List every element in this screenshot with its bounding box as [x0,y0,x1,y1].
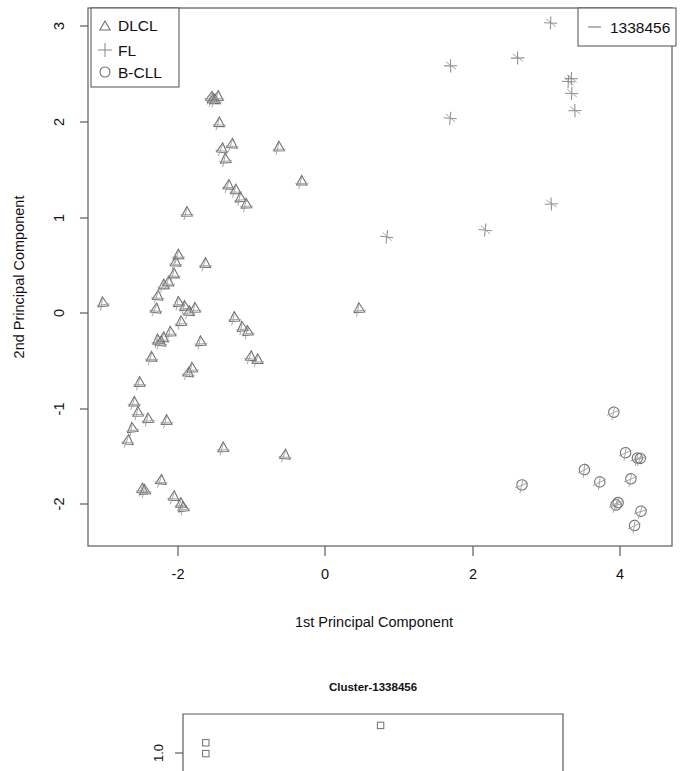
data-point-dlcl [272,141,285,155]
data-point-dlcl [215,142,229,157]
data-point-fl [444,59,457,72]
class-legend: DLCL FL B-CLL [91,8,179,87]
marker-overlay [142,421,155,422]
data-point-dlcl [199,258,212,272]
data-point-dlcl [154,474,168,489]
square-marker [203,740,209,746]
data-point-b-cll [618,446,632,461]
data-point-fl [561,75,575,89]
data-point-dlcl [241,325,255,340]
y-tick-label: 1 [51,214,67,222]
data-point-fl [568,104,581,117]
data-point-b-cll [624,473,637,487]
data-point-dlcl [167,268,180,282]
data-point-fl [443,111,457,125]
cluster-panel-ytick-label: 1.0 [151,744,166,762]
square-marker [203,750,209,756]
marker-overlay [222,187,235,188]
y-tick-label: 3 [51,22,67,30]
x-tick-label: 4 [616,566,624,582]
data-point-dlcl [194,335,208,349]
marker-overlay [175,324,188,325]
cluster-legend-label: 1338456 [610,19,670,36]
x-tick-label: 2 [469,566,477,582]
data-point-b-cll [633,505,647,520]
data-point-fl [544,16,558,30]
data-point-dlcl [217,442,230,456]
y-tick-label: 0 [51,309,67,317]
y-tick-label: 2 [51,118,67,126]
data-point-dlcl [213,117,226,131]
cluster-panel-title: Cluster-1338456 [329,681,417,693]
data-point-fl [544,197,558,211]
data-point-dlcl [160,415,173,429]
data-point-fl [478,223,492,237]
data-point-dlcl [180,206,193,220]
x-tick-label: 0 [321,566,329,582]
data-point-b-cll [627,519,641,534]
square-marker [377,722,383,728]
data-point-dlcl [164,326,178,340]
cluster-panel-frame [183,714,563,771]
y-tick-label: -2 [51,498,67,511]
data-point-fl [565,87,579,101]
legend-label: DLCL [118,17,158,34]
x-tick-label: -2 [172,566,185,582]
cluster-id-legend: 1338456 [578,8,676,46]
data-point-dlcl [222,179,236,193]
data-point-fl [565,72,578,85]
y-tick-label: -1 [51,403,67,416]
legend-label: B-CLL [118,64,162,81]
y-axis-title: 2nd Principal Component [11,196,27,359]
main-scatter-panel: 3 2 1 0 -1 -2 2nd Principal Component -2… [11,8,676,630]
legend-label: FL [118,42,136,59]
marker-overlay [164,334,177,335]
data-point-fl [379,230,394,245]
figure-canvas: 3 2 1 0 -1 -2 2nd Principal Component -2… [0,0,684,771]
data-point-dlcl [96,296,110,311]
data-point-b-cll [607,406,620,420]
y-axis: 3 2 1 0 -1 -2 2nd Principal Component [11,22,88,510]
data-point-dlcl [352,302,366,316]
data-point-dlcl [228,311,242,325]
data-point-dlcl [149,302,163,317]
data-point-b-cll [608,498,622,513]
data-point-dlcl [145,351,158,365]
y-axis-ticks [80,26,88,504]
data-point-dlcl [225,138,239,152]
data-point-dlcl [229,184,242,198]
cluster-panel-points [203,722,384,757]
data-point-b-cll [592,475,606,490]
marker-overlay [240,206,253,207]
x-axis-title: 1st Principal Component [295,614,453,630]
data-point-dlcl [219,153,233,167]
data-point-dlcl [131,406,144,420]
data-point-fl [511,51,524,64]
pca-cluster-figure: 3 2 1 0 -1 -2 2nd Principal Component -2… [0,0,684,771]
x-axis-ticks [178,546,620,556]
scatter-points [96,16,648,534]
x-axis: -2 0 2 4 1st Principal Component [172,546,624,630]
data-point-dlcl [169,256,182,270]
data-point-dlcl [278,449,292,464]
data-point-dlcl [151,290,165,305]
data-point-dlcl [121,434,135,449]
data-point-dlcl [133,377,146,391]
data-point-b-cll [515,479,528,493]
cluster-panel: Cluster-1338456 1.0 [151,681,563,771]
data-point-dlcl [295,175,308,189]
data-point-dlcl [125,422,139,437]
data-point-b-cll [577,463,592,478]
